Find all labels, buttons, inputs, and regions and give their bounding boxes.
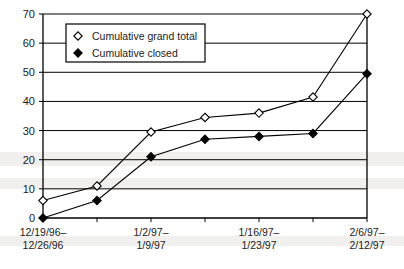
y-axis-tick-label: 30 [23,125,35,137]
open-diamond-marker [309,93,317,101]
scan-band [0,152,404,166]
open-diamond-marker [255,109,263,117]
series-line [43,74,367,218]
x-axis-category-label: 12/26/96 [23,239,64,251]
filled-diamond-marker [39,214,47,222]
y-axis-tick-label: 10 [23,183,35,195]
x-axis-category-label: 2/12/97 [349,239,384,251]
legend-item-label: Cumulative closed [92,47,178,59]
x-axis-category-label: 1/9/97 [136,239,165,251]
x-axis-category-label: 1/16/97– [239,226,280,238]
scan-band [0,178,404,189]
legend-item-label: Cumulative grand total [92,30,197,42]
y-axis-tick-label: 50 [23,66,35,78]
open-diamond-marker [39,196,47,204]
y-axis-tick-label: 0 [29,212,35,224]
open-diamond-marker [363,10,371,18]
chart-canvas: 01020304050607012/19/96–12/26/961/2/97–1… [0,0,404,269]
x-axis-category-label: 12/19/96– [20,226,67,238]
y-axis-tick-label: 20 [23,154,35,166]
line-chart: 01020304050607012/19/96–12/26/961/2/97–1… [0,0,404,269]
y-axis-tick-label: 70 [23,8,35,20]
x-axis-category-label: 1/2/97– [133,226,168,238]
filled-diamond-marker [255,132,263,140]
x-axis-category-label: 1/23/97 [241,239,276,251]
y-axis-tick-label: 60 [23,37,35,49]
filled-diamond-marker [201,135,209,143]
x-axis-category-label: 2/6/97– [349,226,384,238]
y-axis-tick-label: 40 [23,95,35,107]
open-diamond-marker [201,113,209,121]
